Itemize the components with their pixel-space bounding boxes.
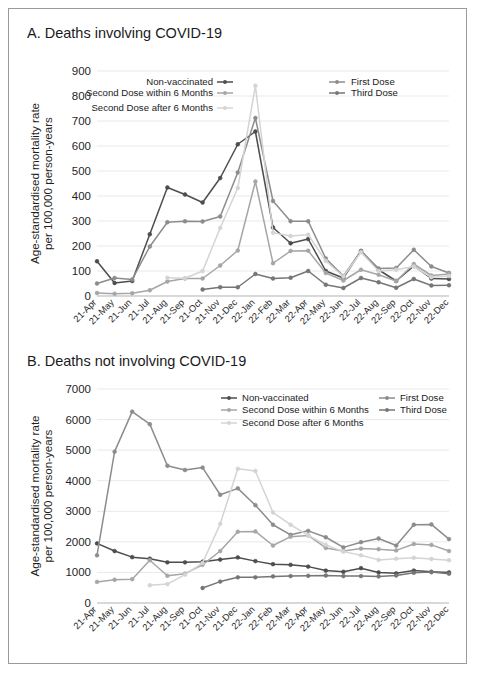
series-marker [447,549,451,553]
series-marker [254,116,258,120]
series-marker [342,286,346,290]
series-marker [306,233,310,237]
series-marker [394,268,398,272]
series-marker [130,410,134,414]
y-axis-tick-label: 600 [72,140,91,152]
series-marker [218,176,222,180]
y-axis-tick-label: 3000 [65,505,91,517]
series-marker [394,549,398,553]
legend-label: Third Dose [351,87,398,98]
series-marker [166,186,170,190]
series-marker [342,570,346,574]
y-axis-tick-label: 7000 [65,383,91,395]
series-marker [430,557,434,561]
y-axis-label-line2: per 100,000 person-years [41,117,54,250]
series-marker [342,279,346,283]
series-marker [113,549,117,553]
series-marker [412,571,416,575]
series-marker [430,523,434,527]
series-marker [201,561,205,565]
series-marker [254,530,258,534]
legend-swatch-marker [223,106,227,110]
legend-item: Non-vaccinated [146,76,233,87]
chart-panel-b: B. Deaths not involving COVID-19 0100020… [9,345,466,663]
series-marker [236,486,240,490]
series-marker [183,573,187,577]
series-line [97,412,449,556]
series-marker [166,582,170,586]
series-marker [359,250,363,254]
series-marker [447,572,451,576]
series-marker [359,276,363,280]
series-marker [306,565,310,569]
series-marker [359,268,363,272]
series-marker [201,269,205,273]
series-marker [148,245,152,249]
y-axis-label-line1: Age-standardised mortality rate [28,415,41,576]
y-axis-tick-label: 100 [72,265,91,277]
series-marker [183,219,187,223]
series-marker [306,219,310,223]
series-marker [95,259,99,263]
series-marker [183,276,187,280]
legend-label: Second Dose after 6 Months [242,417,364,428]
series-marker [236,285,240,289]
series-marker [377,537,381,541]
series-marker [166,276,170,280]
y-axis-tick-label: 400 [72,190,91,202]
legend-swatch-marker [385,408,389,412]
y-axis-label-line2: per 100,000 person-years [41,429,54,562]
y-axis-tick-label: 6000 [65,414,91,426]
series-marker [254,180,258,184]
y-axis-tick-label: 5000 [65,444,91,456]
series-marker [271,562,275,566]
series-marker [166,280,170,284]
chart-panel-a: A. Deaths involving COVID-19 01002003004… [9,9,466,345]
panel-b-chart-svg: 0100020003000400050006000700021-Apr21-Ma… [9,345,466,663]
y-axis-label-line1: Age-standardised mortality rate [28,103,41,264]
series-marker [218,522,222,526]
series-marker [236,575,240,579]
series-marker [95,282,99,286]
series-marker [254,503,258,507]
series-marker [271,523,275,527]
series-marker [271,544,275,548]
series-marker [130,291,134,295]
series-marker [377,571,381,575]
y-axis-tick-label: 700 [72,115,91,127]
series-marker [306,574,310,578]
series-marker [430,275,434,279]
series-marker [324,535,328,539]
series-marker [447,274,451,278]
legend-item: Third Dose [379,404,447,415]
legend-swatch-marker [227,421,231,425]
legend-label: Second Dose within 6 Months [86,87,213,98]
series-marker [342,574,346,578]
series-marker [447,537,451,541]
legend-item: Non-vaccinated [221,392,309,403]
series-marker [289,219,293,223]
y-axis-tick-label: 300 [72,215,91,227]
legend-label: Non-vaccinated [242,392,309,403]
series-marker [289,563,293,567]
series-marker [236,171,240,175]
figure-frame: A. Deaths involving COVID-19 01002003004… [8,8,467,664]
series-marker [148,558,152,562]
series-marker [148,288,152,292]
series-marker [306,269,310,273]
legend-label: Second Dose after 6 Months [91,102,213,113]
series-marker [289,249,293,253]
series-marker [113,292,117,296]
series-marker [254,130,258,134]
series-marker [218,215,222,219]
series-marker [342,550,346,554]
series-marker [394,574,398,578]
series-marker [324,569,328,573]
series-marker [148,232,152,236]
series-marker [289,234,293,238]
series-marker [201,201,205,205]
series-marker [183,560,187,564]
legend-swatch-marker [335,91,339,95]
legend-swatch-marker [227,408,231,412]
series-marker [394,557,398,561]
